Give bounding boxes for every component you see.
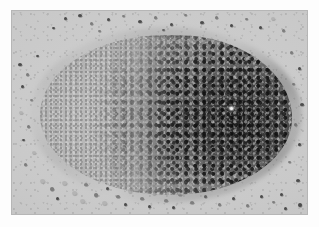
photograph bbox=[12, 11, 307, 214]
heap-tone-transition bbox=[131, 41, 171, 188]
image-canvas: Granular powder sample bbox=[0, 0, 319, 227]
powder-heap bbox=[40, 35, 292, 195]
highlight-speck bbox=[230, 107, 233, 110]
